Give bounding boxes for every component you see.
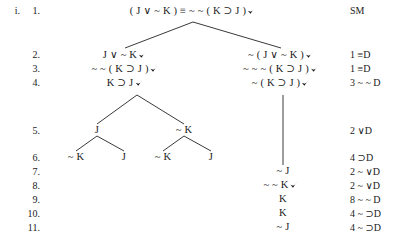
justification-line-4: 3 ~ ~ D [350,77,381,88]
formula-node-n4L: K ⊃ J [107,76,144,88]
line-number-1: 1. [18,5,40,16]
justification-line-2: 1 ≡D [350,49,370,60]
line-number-5: 5. [18,125,40,136]
formula-node-n3R: ~ ~ ~ ( K ⊃ J ) [243,62,319,74]
formula-text: ~ ~ K [263,179,288,190]
branch-line-j-to-j [97,136,124,151]
formula-node-n6c: ~ K [155,151,172,162]
branch-line-notk-to-j [184,136,211,151]
checkmark-icon [138,50,147,59]
branch-line-root-to-left-branch [125,22,193,48]
formula-text: ~ K [68,151,85,162]
checkmark-icon [150,64,159,73]
formula-node-n7: ~ J [277,165,290,176]
line-number-8: 8. [18,180,40,191]
formula-text: J [209,151,213,162]
checkmark-icon [290,180,299,189]
formula-node-n4R: ~ ( K ⊃ J ) [252,76,310,88]
checkmark-icon [305,50,314,59]
formula-node-n3L: ~ ~ ( K ⊃ J ) [91,62,158,74]
formula-node-n6d: J [209,151,213,162]
formula-node-n2L: J ∨ ~ K [103,48,147,60]
formula-text: ( J ∨ ~ K ) ≡ ~ ~ ( K ⊃ J ) [130,5,246,16]
line-number-2: 2. [18,49,40,60]
formula-text: ~ ( J ∨ ~ K ) [248,49,304,60]
formula-node-n5L: J [95,124,99,135]
formula-node-n10: K [279,207,287,218]
formula-text: J [122,151,126,162]
justification-line-5: 2 ∨D [350,125,372,136]
formula-text: ~ ~ ( K ⊃ J ) [91,63,148,74]
branch-line-j-to-notk [76,136,97,151]
checkmark-icon [310,64,319,73]
branch-line-root-to-right-branch [193,22,281,48]
formula-text: ~ K [176,124,193,135]
formula-text: ~ J [277,221,290,232]
line-number-9: 9. [18,194,40,205]
checkmark-icon [301,78,310,87]
formula-text: J ∨ ~ K [103,49,137,60]
formula-node-n11: ~ J [277,221,290,232]
formula-node-n2R: ~ ( J ∨ ~ K ) [248,48,314,60]
branch-line-left-to-notk [137,95,184,124]
line-number-3: 3. [18,63,40,74]
branch-lines [0,0,402,252]
formula-text: J [95,124,99,135]
formula-text: ~ K [155,151,172,162]
line-number-7: 7. [18,166,40,177]
formula-text: K ⊃ J [107,77,134,88]
formula-node-n6b: J [122,151,126,162]
formula-text: ~ ~ ~ ( K ⊃ J ) [243,63,309,74]
line-number-10: 10. [18,208,40,219]
justification-line-8: 2 ~ ∨D [350,180,380,191]
branch-line-left-to-j [97,95,137,124]
truth-tree-page: i. 1.2.3.4.5.6.7.8.9.10.11. ( J ∨ ~ K ) … [0,0,402,252]
line-number-4: 4. [18,77,40,88]
formula-node-n6a: ~ K [68,151,85,162]
formula-text: ~ J [277,165,290,176]
justification-line-11: 4 ~ ⊃D [350,222,381,233]
formula-node-n8: ~ ~ K [263,179,298,190]
formula-node-n9: K [279,193,287,204]
justification-line-3: 1 ≡D [350,63,370,74]
branch-line-notk-to-notk [163,136,184,151]
formula-text: K [279,193,287,204]
line-number-6: 6. [18,152,40,163]
justification-line-6: 4 ⊃D [350,152,373,163]
formula-text: ~ ( K ⊃ J ) [252,77,300,88]
line-number-11: 11. [18,222,40,233]
justification-line-7: 2 ~ ∨D [350,166,380,177]
justification-line-9: 8 ~ ~ D [350,194,381,205]
formula-text: K [279,207,287,218]
justification-line-1: SM [350,5,364,16]
justification-line-10: 4 ~ ⊃D [350,208,381,219]
formula-node-n1: ( J ∨ ~ K ) ≡ ~ ~ ( K ⊃ J ) [130,4,256,16]
formula-node-n5R: ~ K [176,124,193,135]
checkmark-icon [247,6,256,15]
checkmark-icon [134,78,143,87]
